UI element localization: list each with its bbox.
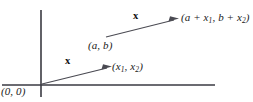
label-point-x-open: (x <box>112 60 121 72</box>
axes-group <box>2 10 215 97</box>
vector-from-origin <box>42 64 112 84</box>
vector-label-upper: x <box>133 11 138 22</box>
label-point-sum-sub1: 1 <box>209 16 213 25</box>
label-point-sum-mid: , b + x <box>212 11 242 23</box>
label-point-x-mid: , x <box>125 60 136 72</box>
vector-from-origin-arrowhead <box>102 64 113 69</box>
label-point-sum-close: ) <box>246 11 250 23</box>
label-point-x-close: ) <box>139 60 143 72</box>
vector-translated-arrowhead <box>169 16 180 21</box>
label-point-x-sub1: 1 <box>121 65 125 74</box>
label-point-x-sub2: 2 <box>135 65 139 74</box>
vector-translation-figure: (0, 0) (x1, x2) (a, b) (a + x1, b + x2) … <box>0 0 253 102</box>
label-point-x: (x1, x2) <box>112 61 143 72</box>
label-point-sum-sub2: 2 <box>242 16 246 25</box>
vector-translated-shaft <box>106 20 174 37</box>
vector-from-origin-shaft <box>42 68 107 84</box>
vector-translated <box>106 16 179 37</box>
label-point-sum-open: (a + x <box>181 11 209 23</box>
label-point-ab: (a, b) <box>88 40 112 51</box>
label-point-sum: (a + x1, b + x2) <box>181 12 250 23</box>
label-origin: (0, 0) <box>1 86 25 97</box>
vector-label-lower: x <box>65 56 70 67</box>
